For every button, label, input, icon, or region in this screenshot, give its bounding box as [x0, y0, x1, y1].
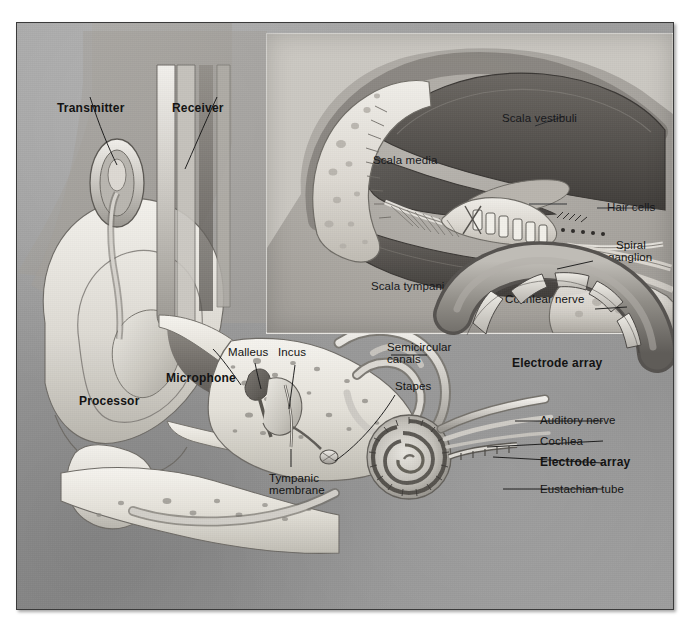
label-tympanic-membrane-line1: Tympanic [269, 472, 319, 485]
label-processor: Processor [79, 395, 140, 408]
label-receiver: Receiver [172, 102, 224, 115]
label-electrode-array-inset: Electrode array [512, 357, 602, 370]
label-scala-vestibuli: Scala vestibuli [502, 112, 577, 125]
label-scala-tympani: Scala tympani [371, 280, 445, 293]
label-auditory-nerve: Auditory nerve [540, 414, 616, 427]
label-cochlea: Cochlea [540, 435, 583, 448]
label-malleus: Malleus [228, 346, 268, 359]
label-scala-media: Scala media [373, 154, 437, 167]
label-cochlear-nerve: Cochlear nerve [505, 293, 584, 306]
label-semicircular-canals-line1: Semicircular [387, 341, 451, 354]
label-transmitter: Transmitter [57, 102, 125, 115]
cochlea-cross-section-inset: Scala vestibuli Scala media Scala tympan… [266, 33, 674, 334]
label-tympanic-membrane-line2: membrane [269, 484, 325, 497]
label-spiral-ganglion-line2: ganglion [608, 251, 652, 264]
label-spiral-ganglion-line1: Spiral [616, 239, 646, 252]
label-hair-cells: Hair cells [607, 201, 655, 214]
label-semicircular-canals-line2: canals [387, 353, 421, 366]
label-incus: Incus [278, 346, 306, 359]
label-eustachian-tube: Eustachian tube [540, 483, 624, 496]
illustration-plate: Scala vestibuli Scala media Scala tympan… [16, 22, 674, 610]
label-stapes: Stapes [395, 380, 431, 393]
illustration-figure: Scala vestibuli Scala media Scala tympan… [0, 0, 687, 620]
label-microphone: Microphone [166, 372, 236, 385]
label-electrode-array-main: Electrode array [540, 456, 630, 469]
